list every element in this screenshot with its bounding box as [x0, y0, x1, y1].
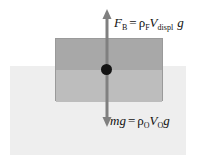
object-volume-subscript: O	[157, 121, 163, 130]
displaced-volume-symbol: V	[150, 15, 158, 30]
fluid-density-subscript: F	[145, 23, 149, 32]
center-of-mass-dot	[101, 64, 112, 75]
object-density-symbol: ρ	[137, 113, 144, 128]
mass-symbol: m	[110, 113, 119, 128]
displaced-volume-subscript: displ	[158, 23, 174, 32]
buoyant-force-label: FB=ρFVdispl g	[114, 16, 184, 29]
buoyancy-diagram: FB=ρFVdispl g mg=ρOVOg	[0, 0, 209, 167]
buoyant-gravity-symbol: g	[177, 15, 184, 30]
weight-gravity-lhs: g	[119, 113, 126, 128]
weight-force-label: mg=ρOVOg	[110, 114, 170, 127]
weight-equals: =	[126, 113, 137, 128]
buoyant-force-arrow	[103, 9, 112, 70]
buoyant-equals: =	[127, 15, 138, 30]
buoyant-symbol: F	[114, 15, 122, 30]
object-density-subscript: O	[144, 121, 150, 130]
weight-gravity-symbol: g	[163, 113, 170, 128]
buoyant-symbol-subscript: B	[122, 23, 127, 32]
